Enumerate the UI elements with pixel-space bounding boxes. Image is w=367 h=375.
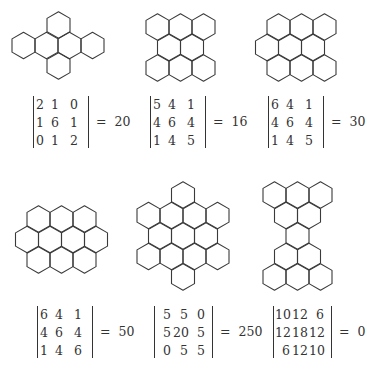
determinant-value: =20 xyxy=(96,115,130,129)
figure-canvas: 210161012=20541464145=16641464145=306414… xyxy=(0,0,367,375)
equals-sign: = xyxy=(220,324,230,339)
matrix-entry: 1 xyxy=(48,98,62,112)
matrix-entry: 4 xyxy=(52,308,66,322)
determinant-value: =0 xyxy=(339,325,365,339)
kekule-count: 250 xyxy=(238,324,262,339)
molecule-2 xyxy=(146,14,215,82)
determinant-value: =50 xyxy=(100,325,134,339)
molecule-5 xyxy=(137,182,229,291)
matrix-entry: 12 xyxy=(275,326,290,340)
matrix-entry: 12 xyxy=(292,344,307,358)
matrix-entry: 6 xyxy=(275,344,290,358)
kekule-count: 20 xyxy=(114,114,130,129)
matrix-entry: 10 xyxy=(275,308,290,322)
matrix-entry: 4 xyxy=(299,116,313,130)
matrix-entry: 1 xyxy=(299,98,313,112)
matrix-entry: 5 xyxy=(173,308,188,322)
molecule-6 xyxy=(263,182,332,291)
matrix-entry: 5 xyxy=(190,344,205,358)
molecule-1 xyxy=(12,12,104,80)
determinant-value: =30 xyxy=(331,115,365,129)
determinant-value: =16 xyxy=(213,115,247,129)
matrix-entry: 6 xyxy=(48,116,62,130)
matrix-entry: 5 xyxy=(181,134,195,148)
matrix-entry: 1 xyxy=(68,308,82,322)
matrix-entry: 20 xyxy=(173,326,188,340)
matrix-entry: 5 xyxy=(190,326,205,340)
matrix-entry: 5 xyxy=(156,308,171,322)
equals-sign: = xyxy=(96,114,106,129)
matrix-entry: 0 xyxy=(156,344,171,358)
kekule-count: 30 xyxy=(349,114,365,129)
equals-sign: = xyxy=(213,114,223,129)
kekule-count: 16 xyxy=(231,114,247,129)
matrix-entry: 1 xyxy=(181,98,195,112)
matrix-entry: 4 xyxy=(165,98,179,112)
matrix-entry: 5 xyxy=(299,134,313,148)
molecule-3 xyxy=(256,14,337,82)
matrix-entry: 4 xyxy=(283,98,297,112)
matrix-entry: 5 xyxy=(156,326,171,340)
determinant-value: =250 xyxy=(220,325,262,339)
matrix-entry: 4 xyxy=(283,134,297,148)
kekule-count: 50 xyxy=(118,324,134,339)
matrix-entry: 1 xyxy=(64,116,78,130)
equals-sign: = xyxy=(100,324,110,339)
hexagon-ring xyxy=(81,32,104,59)
matrix-entry: 2 xyxy=(64,134,78,148)
matrix-entry: 4 xyxy=(165,134,179,148)
matrix-entry: 12 xyxy=(292,308,307,322)
equals-sign: = xyxy=(339,324,349,339)
matrix-entry: 6 xyxy=(52,326,66,340)
matrix-entry: 4 xyxy=(68,326,82,340)
matrix-entry: 6 xyxy=(165,116,179,130)
matrix-entry: 10 xyxy=(309,344,324,358)
equals-sign: = xyxy=(331,114,341,129)
matrix-entry: 4 xyxy=(181,116,195,130)
matrix-entry: 12 xyxy=(309,326,324,340)
kekule-count: 0 xyxy=(357,324,365,339)
molecule-4 xyxy=(16,206,108,274)
matrix-entry: 0 xyxy=(64,98,78,112)
matrix-entry: 6 xyxy=(309,308,324,322)
matrix-entry: 0 xyxy=(190,308,205,322)
matrix-entry: 6 xyxy=(68,344,82,358)
matrix-entry: 18 xyxy=(292,326,307,340)
matrix-entry: 5 xyxy=(173,344,188,358)
matrix-entry: 4 xyxy=(52,344,66,358)
matrix-entry: 1 xyxy=(48,134,62,148)
hexagon-ring xyxy=(12,32,35,59)
matrix-entry: 6 xyxy=(283,116,297,130)
